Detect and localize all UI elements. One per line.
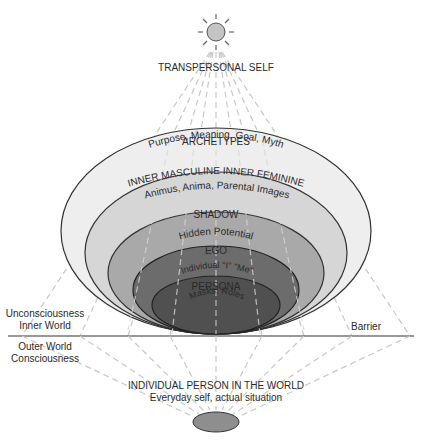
- transpersonal-self-label: TRANSPERSONAL SELF: [158, 62, 274, 73]
- consciousness-label: Consciousness: [11, 353, 79, 364]
- person-rays: [22, 336, 410, 418]
- barrier-label: Barrier: [351, 321, 382, 332]
- individual-person-title: INDIVIDUAL PERSON IN THE WORLD: [128, 380, 304, 391]
- outer-world-label: Outer World: [18, 341, 72, 352]
- shadow-title: SHADOW: [194, 209, 240, 220]
- ego-title: EGO: [205, 245, 227, 256]
- individual-person-shape: [193, 412, 239, 432]
- inner-world-label: Inner World: [19, 320, 71, 331]
- psyche-diagram: TRANSPERSONAL SELF ARCHETYPES Purpose, M…: [0, 0, 426, 445]
- sun-icon: [198, 14, 234, 50]
- unconsciousness-label: Unconsciousness: [6, 308, 84, 319]
- individual-person-subtitle: Everyday self, actual situation: [150, 392, 282, 403]
